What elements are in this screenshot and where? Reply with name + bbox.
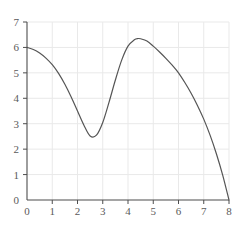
x-tick-label: 2 [75, 205, 81, 217]
chart-container: 012345678 01234567 [0, 0, 240, 227]
y-tick-label: 5 [14, 67, 20, 79]
y-tick-label: 2 [14, 143, 20, 155]
x-tick-label: 0 [24, 205, 30, 217]
x-tick-label: 1 [50, 205, 56, 217]
x-tick-label: 6 [176, 205, 182, 217]
y-tick-label: 7 [14, 16, 20, 28]
y-tick-label: 4 [14, 92, 20, 104]
x-tick-label: 7 [201, 205, 207, 217]
x-tick-label: 3 [100, 205, 106, 217]
line-chart: 012345678 01234567 [0, 0, 240, 227]
y-tick-label: 3 [14, 118, 20, 130]
y-tick-label: 0 [14, 194, 20, 206]
x-tick-label: 5 [151, 205, 157, 217]
y-tick-label: 6 [14, 41, 20, 53]
x-tick-label: 4 [125, 205, 131, 217]
y-tick-label: 1 [14, 169, 20, 181]
x-tick-label: 8 [226, 205, 232, 217]
